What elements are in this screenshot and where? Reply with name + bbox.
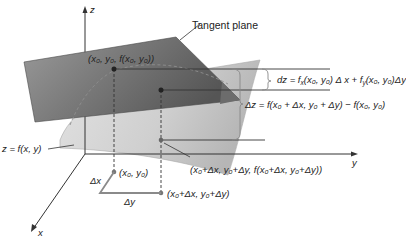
figure-canvas: z y x Tangent plane z = f(x, y) (x₀, y₀,… xyxy=(0,0,406,237)
y-axis-label: y xyxy=(351,157,358,168)
base-point-shifted-label: (x₀+Δx, y₀+Δy) xyxy=(167,188,229,199)
point-surface-label: (x₀+Δx, y₀+Δy, f(x₀+Δx, y₀+Δy)) xyxy=(190,164,322,175)
x-axis-label: x xyxy=(37,227,44,237)
dz-formula: dz = fx(x₀, y₀) Δ x + fy(x₀, y₀)Δy xyxy=(277,74,406,87)
delta-x-label: Δx xyxy=(89,175,102,186)
x-axis xyxy=(33,154,85,229)
delta-y-label: Δy xyxy=(123,196,136,207)
z-axis-arrowhead xyxy=(83,6,88,13)
surface-label: z = f(x, y) xyxy=(1,143,41,154)
delta-z-formula: Δz = f(x₀ + Δx, y₀ + Δy) − f(x₀, y₀) xyxy=(244,99,385,110)
point-tangent xyxy=(159,88,164,93)
y-axis-arrowhead xyxy=(351,152,358,157)
dz-brace xyxy=(262,69,271,90)
point-top xyxy=(112,67,117,72)
z-axis-label: z xyxy=(89,4,95,15)
tangent-plane-label: Tangent plane xyxy=(192,19,258,31)
base-point-label: (x₀, y₀) xyxy=(119,167,148,178)
point-top-label: (x₀, y₀, f(x₀, y₀)) xyxy=(88,53,154,64)
point-surface xyxy=(159,138,164,143)
